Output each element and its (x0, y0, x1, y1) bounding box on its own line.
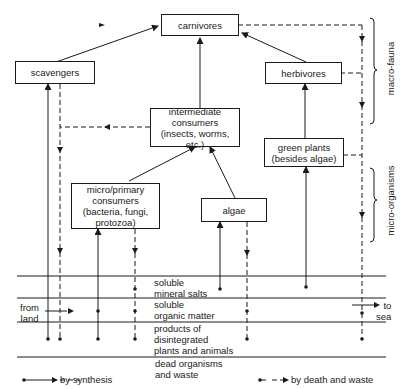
from-land-label: from land (20, 302, 39, 324)
layer-products: products of disintegrated plants and ani… (154, 323, 233, 356)
micro-organisms-label: micro-organisms (385, 156, 396, 246)
micro-bracket (370, 168, 377, 242)
to-sea-label: to sea (376, 300, 391, 322)
node-herbivores: herbivores (265, 62, 342, 84)
node-micro-primary-consumers: micro/primary consumers (bacteria, fungi… (71, 183, 160, 229)
layer-dead-organisms: dead organisms and waste (155, 358, 223, 380)
macro-fauna-label: macro-fauna (385, 29, 396, 109)
macro-bracket (370, 18, 377, 124)
legend-synthesis: by synthesis (60, 374, 112, 385)
legend-death-waste: by death and waste (291, 374, 373, 385)
layer-organic-matter: soluble organic matter (154, 299, 215, 321)
node-green-plants: green plants (besides algae) (264, 138, 344, 167)
node-carnivores: carnivores (161, 14, 239, 36)
node-scavengers: scavengers (15, 61, 95, 84)
layer-mineral-salts: soluble mineral salts (154, 277, 207, 299)
node-intermediate-consumers: intermediate consumers (insects, worms, … (150, 108, 240, 147)
node-algae: algae (201, 198, 267, 222)
